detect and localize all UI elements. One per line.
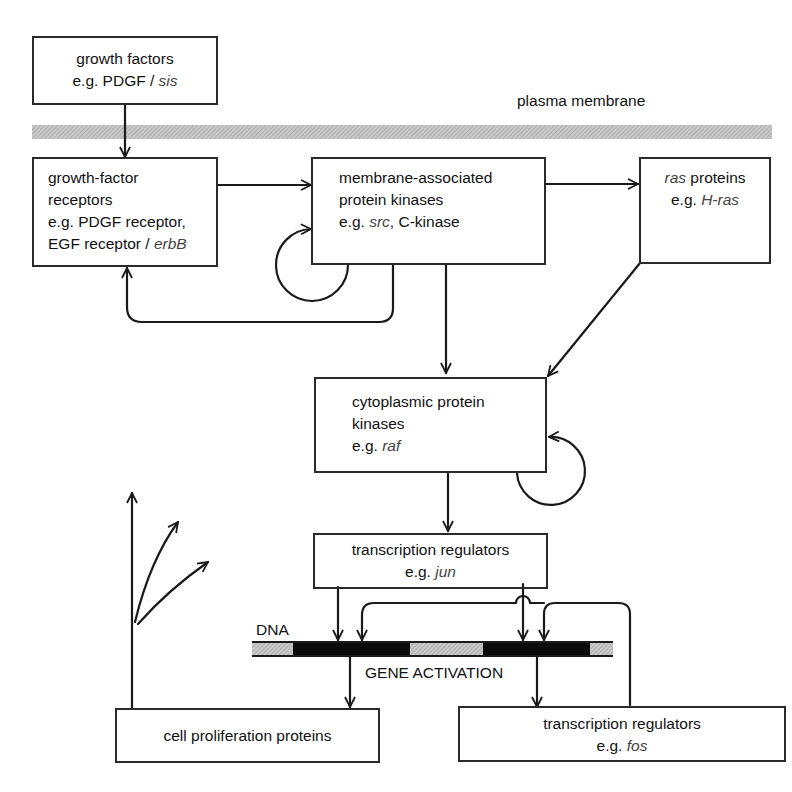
gene-name: ras [665, 169, 687, 186]
gene-activation-label: GENE ACTIVATION [365, 664, 503, 682]
gene-name: src [369, 213, 390, 230]
node-title: cell proliferation proteins [117, 725, 378, 747]
node-cytoplasmic-kinases: cytoplasmic protein kinases e.g. raf [314, 377, 547, 473]
node-membrane-associated-kinases: membrane-associated protein kinases e.g.… [311, 157, 546, 265]
node-title: growth factors [34, 48, 216, 70]
plasma-membrane-label: plasma membrane [517, 92, 645, 110]
node-title: membrane-associated [339, 167, 544, 189]
example-prefix: e.g. [671, 191, 701, 208]
gene-name: fos [627, 737, 648, 754]
node-cell-proliferation-proteins: cell proliferation proteins [115, 708, 380, 763]
node-transcription-regulators-jun: transcription regulators e.g. jun [313, 533, 548, 589]
node-growth-factors: growth factors e.g. PDGF / sis [32, 36, 218, 105]
example-prefix: e.g. PDGF / [72, 72, 158, 89]
node-transcription-regulators-fos: transcription regulators e.g. fos [458, 706, 786, 762]
example-prefix: e.g. [405, 563, 435, 580]
gene-name: jun [435, 563, 456, 580]
example-prefix: e.g. [339, 213, 369, 230]
gene-name: raf [382, 437, 400, 454]
example-prefix: EGF receptor / [48, 235, 154, 252]
node-ras-proteins: ras proteins e.g. H-ras [639, 157, 771, 264]
node-title: kinases [352, 413, 545, 435]
node-title: protein kinases [339, 189, 544, 211]
node-title: transcription regulators [460, 713, 784, 735]
node-title: cytoplasmic protein [352, 391, 545, 413]
gene-name: sis [159, 72, 178, 89]
example-suffix: , C-kinase [390, 213, 460, 230]
node-growth-factor-receptors: growth-factor receptors e.g. PDGF recept… [32, 157, 218, 267]
example-line: e.g. PDGF receptor, [48, 211, 216, 233]
gene-name: H-ras [701, 191, 739, 208]
signalling-diagram: plasma membrane DNA GENE ACTIVATION grow… [0, 0, 792, 792]
plasma-membrane-band [32, 125, 772, 139]
node-title: growth-factor [48, 167, 216, 189]
node-title: receptors [48, 189, 216, 211]
dna-strip [252, 642, 613, 656]
example-prefix: e.g. [597, 737, 627, 754]
node-title: proteins [686, 169, 745, 186]
gene-name: erbB [154, 235, 187, 252]
node-title: transcription regulators [315, 539, 546, 561]
example-prefix: e.g. [352, 437, 382, 454]
dna-label: DNA [256, 621, 289, 639]
